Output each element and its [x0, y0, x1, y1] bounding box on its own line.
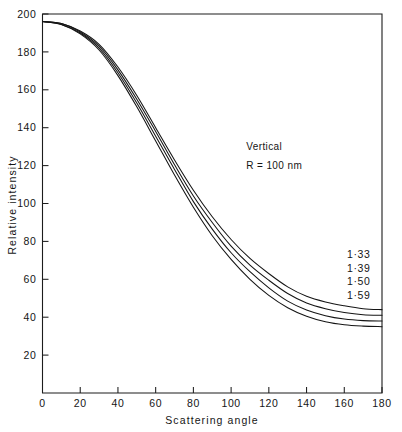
annotation-1: R = 100 nm — [246, 160, 302, 171]
x-tick-label-140: 140 — [297, 397, 316, 409]
y-tick-label-60: 60 — [24, 273, 37, 285]
y-tick-label-120: 120 — [17, 159, 36, 171]
data-curves — [43, 22, 383, 327]
y-axis-title: Relative intensity — [6, 155, 18, 254]
scattering-intensity-figure: 20406080100120140160180200 0204060801001… — [0, 0, 402, 432]
annotation-0: Vertical — [246, 141, 282, 152]
curve-1-39 — [43, 22, 383, 316]
x-tick-label-120: 120 — [259, 397, 278, 409]
x-axis-ticks — [43, 387, 383, 393]
y-tick-label-80: 80 — [24, 235, 37, 247]
y-tick-label-160: 160 — [17, 83, 36, 95]
y-tick-label-40: 40 — [24, 311, 37, 323]
x-tick-label-180: 180 — [372, 397, 391, 409]
series-label-group: 1·331·391·501·59 — [347, 248, 370, 301]
curve-1-59 — [43, 22, 383, 327]
curve-1-33 — [43, 22, 383, 310]
y-tick-label-20: 20 — [24, 349, 37, 361]
y-tick-label-200: 200 — [17, 8, 36, 20]
series-label-1-33: 1·33 — [347, 248, 370, 260]
x-tick-label-160: 160 — [335, 397, 354, 409]
y-axis-ticks — [43, 14, 49, 355]
y-tick-label-180: 180 — [17, 46, 36, 58]
series-label-1-50: 1·50 — [347, 275, 370, 287]
series-label-1-39: 1·39 — [347, 262, 370, 274]
y-tick-label-140: 140 — [17, 121, 36, 133]
chart-canvas: 20406080100120140160180200 0204060801001… — [0, 0, 402, 432]
x-axis-tick-labels: 020406080100120140160180 — [39, 397, 391, 409]
y-axis-tick-labels: 20406080100120140160180200 — [17, 8, 36, 361]
y-tick-label-100: 100 — [17, 197, 36, 209]
x-tick-label-60: 60 — [149, 397, 162, 409]
x-tick-label-20: 20 — [74, 397, 87, 409]
x-tick-label-80: 80 — [187, 397, 200, 409]
plot-annotations: VerticalR = 100 nm — [246, 141, 302, 171]
x-tick-label-100: 100 — [221, 397, 240, 409]
x-tick-label-40: 40 — [111, 397, 124, 409]
series-label-1-59: 1·59 — [347, 289, 370, 301]
curve-1-50 — [43, 22, 383, 321]
x-axis-title: Scattering angle — [165, 414, 258, 426]
x-tick-label-0: 0 — [39, 397, 45, 409]
axis-frame — [43, 14, 383, 393]
